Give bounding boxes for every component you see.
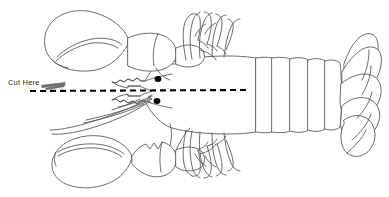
lobster-illustration (0, 0, 389, 197)
antennae (50, 95, 152, 134)
eye-upper-dot (155, 76, 162, 82)
cut-here-label: Cut Here (8, 79, 40, 87)
cut-here-arrow-icon (41, 82, 66, 90)
abdomen-segments (256, 57, 342, 133)
cut-line (30, 90, 246, 91)
tail-fan (340, 34, 381, 157)
eye-lower-dot (154, 98, 161, 104)
lobster-cut-guide-diagram: Cut Here (0, 0, 389, 197)
